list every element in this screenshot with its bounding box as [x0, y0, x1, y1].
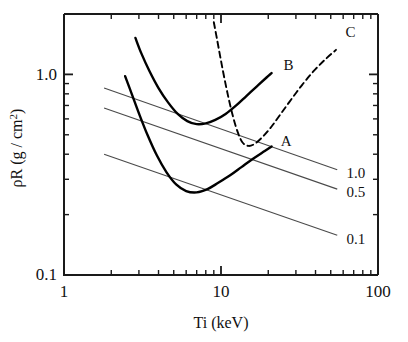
x-tick-label-100: 100	[365, 282, 391, 301]
y-tick-label-1-0: 1.0	[36, 65, 57, 84]
reference-line-label-1-0: 1.0	[347, 165, 366, 181]
curve-label-a: A	[281, 133, 292, 149]
y-axis-title-tail: )	[8, 109, 26, 114]
y-axis-title-main: ρR (g / cm	[8, 119, 26, 188]
reference-line-label-0-1: 0.1	[347, 231, 366, 247]
x-axis-title: Ti (keV)	[194, 314, 249, 332]
y-axis-title: ρR (g / cm2)	[7, 109, 26, 188]
x-tick-label-10: 10	[213, 282, 230, 301]
x-tick-label-1: 1	[60, 282, 69, 301]
chart-figure: 1 10 100 0.1 1.0 Ti (keV) ρR (g / cm2) A…	[0, 0, 408, 342]
curve-label-c: C	[345, 24, 355, 40]
y-tick-label-0-1: 0.1	[36, 265, 57, 284]
curve-label-b: B	[284, 57, 294, 73]
reference-line-label-0-5: 0.5	[347, 184, 366, 200]
svg-text:ρR (g / cm2): ρR (g / cm2)	[7, 109, 26, 188]
log-log-plot: 1 10 100 0.1 1.0 Ti (keV) ρR (g / cm2) A…	[0, 0, 408, 342]
